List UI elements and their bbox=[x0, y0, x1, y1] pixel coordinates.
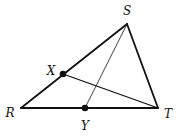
point-x-dot bbox=[60, 71, 67, 78]
segment-sy bbox=[85, 24, 127, 108]
segment-st bbox=[127, 24, 158, 108]
point-label-x: X bbox=[47, 65, 56, 77]
segment-xt bbox=[63, 74, 158, 108]
point-label-y: Y bbox=[81, 120, 89, 132]
vertex-label-r: R bbox=[5, 107, 14, 119]
point-y-dot bbox=[82, 105, 89, 112]
diagram-canvas bbox=[0, 0, 183, 136]
triangle-diagram: S R T X Y bbox=[0, 0, 183, 136]
vertex-label-t: T bbox=[164, 108, 172, 120]
vertex-label-s: S bbox=[123, 5, 131, 17]
segment-rs bbox=[21, 24, 127, 108]
